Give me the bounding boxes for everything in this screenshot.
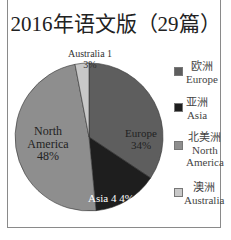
north-america-label-line1: North — [18, 125, 78, 138]
europe-label-pct: 34% — [112, 140, 170, 152]
legend-swatch-europe — [174, 67, 183, 76]
legend-en2-north-america: America — [186, 156, 224, 169]
legend-zh-europe: 欧洲 — [186, 60, 218, 73]
legend-en-north-america: North — [186, 144, 224, 157]
slice-label-asia: Asia 4 4% — [88, 193, 138, 205]
legend-zh-australia: 澳洲 — [184, 181, 224, 194]
legend-swatch-north-america — [174, 141, 183, 150]
asia-label-text: Asia 4 4% — [88, 193, 138, 205]
legend-en-asia: Asia — [186, 109, 208, 122]
australia-label-text: Australia 1 — [60, 49, 120, 60]
north-america-label-pct: 48% — [18, 150, 78, 163]
slice-label-north-america: North America 48% — [18, 125, 78, 163]
slice-label-europe: Europe 34% — [112, 128, 170, 151]
legend-en-europe: Europe — [186, 73, 218, 86]
legend-zh-north-america: 北美洲 — [186, 131, 224, 144]
australia-label-pct: 3% — [60, 60, 120, 71]
europe-label-text: Europe — [112, 128, 170, 140]
legend-swatch-asia — [174, 103, 183, 112]
legend-en-australia: Australia — [184, 194, 224, 207]
slice-label-australia: Australia 1 3% — [60, 49, 120, 70]
legend-swatch-australia — [174, 188, 183, 197]
legend-zh-asia: 亚洲 — [186, 96, 208, 109]
